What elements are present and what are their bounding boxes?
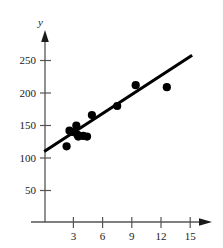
scatter-plot-figure: y 250 200 150 100 50 3 6 9 12 15 — [0, 0, 223, 248]
y-tick-label-250: 250 — [8, 55, 36, 66]
data-point — [113, 102, 121, 110]
data-point — [132, 81, 140, 89]
x-tick-label-3: 3 — [61, 231, 85, 242]
x-axis-arrow-icon — [199, 218, 212, 226]
data-point — [62, 142, 70, 150]
x-tick-label-6: 6 — [91, 231, 115, 242]
data-points-group — [62, 81, 170, 150]
y-tick-label-150: 150 — [8, 120, 36, 131]
y-axis-label: y — [38, 17, 43, 28]
data-point — [163, 83, 171, 91]
x-tick-label-9: 9 — [120, 231, 144, 242]
x-tick-label-15: 15 — [178, 231, 202, 242]
y-tick-label-50: 50 — [8, 185, 36, 196]
y-tick-label-200: 200 — [8, 88, 36, 99]
y-tick-label-100: 100 — [8, 153, 36, 164]
y-axis-arrow-icon — [41, 30, 49, 42]
data-point — [72, 121, 80, 129]
data-point — [83, 132, 91, 140]
data-point — [88, 111, 96, 119]
x-tick-label-12: 12 — [149, 231, 173, 242]
